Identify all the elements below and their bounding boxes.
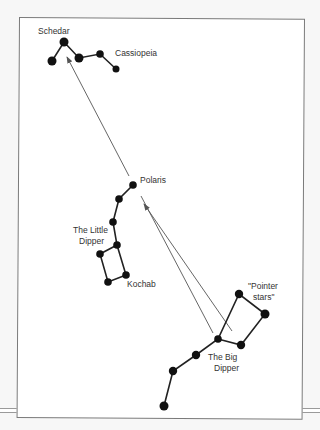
label-kochab: Kochab	[127, 279, 156, 289]
label-big-dipper-2: Dipper	[214, 363, 239, 373]
star-icon	[96, 250, 104, 258]
star-polaris-icon	[129, 181, 137, 189]
label-little-dipper-2: Dipper	[79, 236, 104, 246]
label-cassiopeia: Cassiopeia	[115, 48, 157, 58]
star-icon	[237, 341, 245, 349]
star-pointer-icon	[261, 310, 270, 319]
labels: Schedar Cassiopeia Polaris The Little Di…	[38, 26, 278, 373]
label-schedar: Schedar	[38, 26, 70, 36]
star-icon	[169, 367, 177, 375]
star-icon	[109, 218, 117, 226]
label-big-dipper-1: The Big	[208, 352, 238, 362]
label-pointer-stars-1: "Pointer	[248, 281, 278, 291]
star-kochab-icon	[122, 271, 130, 279]
star-icon	[96, 50, 104, 58]
star-chart: Schedar Cassiopeia Polaris The Little Di…	[0, 0, 320, 430]
star-icon	[48, 57, 57, 66]
arrow-pointer-to-polaris	[144, 204, 232, 331]
cassiopeia-constellation	[48, 38, 120, 73]
star-icon	[75, 54, 84, 63]
arrow-pointer-to-polaris-2	[141, 196, 213, 333]
label-pointer-stars-2: stars"	[253, 292, 274, 302]
star-icon	[115, 195, 123, 203]
star-icon	[214, 335, 222, 343]
star-pointer-icon	[235, 290, 243, 298]
label-polaris: Polaris	[140, 175, 166, 185]
star-icon	[192, 351, 200, 359]
star-icon	[160, 402, 169, 411]
arrow-polaris-to-schedar	[67, 57, 129, 176]
star-icon	[104, 278, 112, 286]
big-dipper-constellation	[160, 290, 270, 411]
label-little-dipper-1: The Little	[73, 225, 108, 235]
pointer-arrows	[67, 57, 232, 333]
star-icon	[113, 66, 120, 73]
star-schedar-icon	[60, 38, 69, 47]
star-icon	[113, 241, 121, 249]
